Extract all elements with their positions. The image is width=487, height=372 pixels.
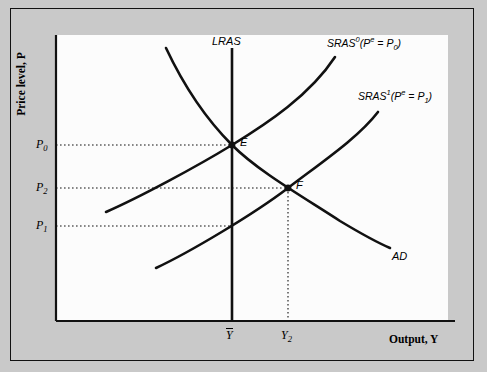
point-label-F: F (296, 179, 303, 191)
point-marker-E (229, 142, 236, 149)
chart-svg (0, 0, 487, 372)
y-tick-label-p2: P2 (36, 180, 48, 196)
x-tick-label-ybar: Y (226, 328, 233, 343)
curve-label-sras1: SRAS1(Pe = P1) (358, 88, 432, 105)
curve-sras1 (156, 112, 378, 268)
x-tick-label-y2: Y2 (281, 328, 292, 344)
curve-label-ad: AD (392, 250, 407, 262)
x-axis-title: Output, Y (389, 333, 438, 345)
point-label-E: E (240, 136, 247, 148)
figure-container: Price level, P Output, Y P0 P2 P1 Y Y2 L… (0, 0, 487, 372)
point-marker-F (285, 185, 292, 192)
curve-label-sras0: SRAS0(Pe = P0) (327, 35, 401, 52)
y-tick-label-p1: P1 (36, 218, 48, 234)
y-tick-label-p0: P0 (36, 137, 48, 153)
curve-label-lras: LRAS (212, 35, 241, 47)
curve-ad (166, 48, 390, 248)
y-axis-title: Price level, P (15, 36, 27, 132)
reference-lines (56, 145, 288, 321)
